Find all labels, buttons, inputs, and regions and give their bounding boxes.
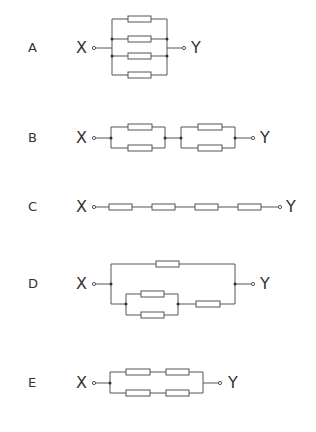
resistor-icon xyxy=(238,204,261,210)
resistor-icon xyxy=(109,204,132,210)
resistor-icon xyxy=(196,301,220,307)
resistor-icon xyxy=(128,36,151,42)
circuit-diagrams xyxy=(0,0,316,432)
resistor-icon xyxy=(152,204,175,210)
resistor-icon xyxy=(166,390,189,396)
resistor-icon xyxy=(126,369,150,375)
resistor-icon xyxy=(166,369,189,375)
resistor-icon xyxy=(195,204,218,210)
resistor-icon xyxy=(141,312,164,318)
resistor-icon xyxy=(156,261,179,267)
resistor-icon xyxy=(128,53,151,59)
resistor-icon xyxy=(126,390,150,396)
resistor-icon xyxy=(128,124,152,130)
resistor-icon xyxy=(198,145,222,151)
resistor-icon xyxy=(128,72,151,78)
resistor-icon xyxy=(141,291,164,297)
circuit-e xyxy=(92,369,221,396)
resistor-icon xyxy=(198,124,222,130)
resistor-icon xyxy=(128,16,151,22)
circuit-a xyxy=(92,16,185,78)
circuit-c xyxy=(92,204,281,210)
circuit-d xyxy=(92,261,254,318)
resistor-icon xyxy=(128,145,152,151)
circuit-b xyxy=(92,124,254,151)
